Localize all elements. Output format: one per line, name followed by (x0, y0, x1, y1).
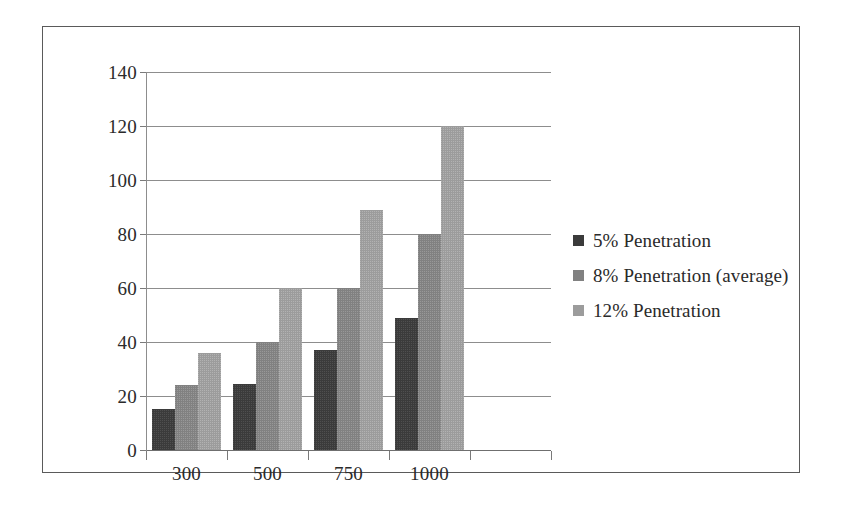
bar (256, 342, 279, 450)
chart-legend: 5% Penetration8% Penetration (average)12… (573, 223, 823, 328)
legend-label: 8% Penetration (average) (593, 265, 788, 287)
y-axis-tick-label: 60 (91, 279, 137, 298)
chart-frame: 020406080100120140 3005007501000 5% Pene… (42, 26, 800, 473)
bar (152, 409, 175, 450)
y-axis-tick-label: 80 (91, 225, 137, 244)
legend-item: 5% Penetration (573, 223, 823, 258)
x-axis-tick-label: 750 (308, 464, 389, 483)
legend-item: 8% Penetration (average) (573, 258, 823, 293)
legend-label: 5% Penetration (593, 230, 711, 252)
x-axis-tick (551, 451, 552, 460)
x-axis-tick (389, 451, 390, 460)
plot-area (146, 72, 551, 450)
gridline (146, 450, 551, 451)
y-axis-tick-label: 140 (91, 63, 137, 82)
x-axis-tick-label: 1000 (389, 464, 470, 483)
legend-label: 12% Penetration (593, 300, 721, 322)
x-axis-tick (146, 451, 147, 460)
x-axis-tick-label: 500 (227, 464, 308, 483)
bar (337, 288, 360, 450)
y-axis-tick-label: 120 (91, 117, 137, 136)
y-axis-labels-group: 020406080100120140 (85, 27, 137, 497)
x-axis-tick (308, 451, 309, 460)
x-axis-tick (227, 451, 228, 460)
bar (198, 353, 221, 450)
bar (441, 126, 464, 450)
bar (418, 234, 441, 450)
y-axis-tick-label: 100 (91, 171, 137, 190)
x-axis-tick (470, 451, 471, 460)
legend-item: 12% Penetration (573, 293, 823, 328)
y-axis-tick-label: 20 (91, 387, 137, 406)
legend-swatch-icon (573, 270, 584, 281)
legend-swatch-icon (573, 305, 584, 316)
y-axis-tick-label: 40 (91, 333, 137, 352)
y-axis-tick-label: 0 (91, 441, 137, 460)
bar (395, 318, 418, 450)
bar (279, 288, 302, 450)
bar (360, 210, 383, 450)
bar (314, 350, 337, 450)
legend-swatch-icon (573, 235, 584, 246)
x-axis-tick-label: 300 (146, 464, 227, 483)
bar (175, 385, 198, 450)
bar (233, 384, 256, 450)
